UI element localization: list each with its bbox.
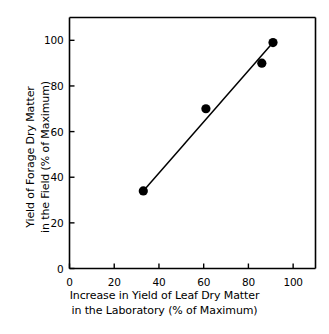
data-point-marker <box>257 59 266 68</box>
x-axis-title-line-1: Increase in Yield of Leaf Dry Matter <box>0 288 329 303</box>
scatter-plot-figure: 020406080100020406080100 Increase in Yie… <box>0 0 329 334</box>
data-point-marker <box>139 186 148 195</box>
x-tick-label: 20 <box>108 276 121 288</box>
data-point-marker <box>201 104 210 113</box>
tick-marks-group <box>70 40 294 268</box>
data-point-marker <box>268 38 277 47</box>
regression-line <box>143 43 273 191</box>
x-tick-label: 80 <box>242 276 255 288</box>
y-axis-title: Yield of Forage Dry Matter in the Field … <box>23 27 53 287</box>
x-tick-label: 100 <box>283 276 302 288</box>
y-axis-title-line-2: in the Field (% of Maximum) <box>38 27 53 287</box>
x-tick-label: 60 <box>197 276 210 288</box>
x-tick-label: 40 <box>152 276 165 288</box>
x-tick-label: 0 <box>66 276 72 288</box>
x-axis-title-line-2: in the Laboratory (% of Maximum) <box>0 303 329 318</box>
axes-group <box>70 18 316 269</box>
x-axis-title: Increase in Yield of Leaf Dry Matter in … <box>0 288 329 318</box>
y-axis-title-line-1: Yield of Forage Dry Matter <box>23 27 38 287</box>
data-series-group <box>139 38 278 196</box>
